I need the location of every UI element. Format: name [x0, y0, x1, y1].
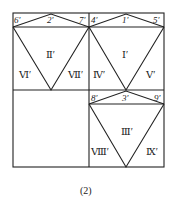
- point-label-3: 3′: [121, 93, 130, 103]
- region-label-9: Ⅸ′: [146, 146, 158, 157]
- point-label-6: 6′: [14, 15, 22, 25]
- diagram-canvas: 6′ 2′ 7′ 4′ 1′ 5′ 8′ 3′ 9′ Ⅱ′ Ⅵ′ Ⅶ′ Ⅰ′ Ⅳ…: [0, 0, 171, 205]
- point-label-1: 1′: [122, 15, 130, 25]
- region-label-6: Ⅵ′: [18, 69, 31, 80]
- point-label-8: 8′: [91, 93, 99, 103]
- point-label-2: 2′: [47, 15, 55, 25]
- region-label-3: Ⅲ′: [121, 126, 133, 137]
- region-label-7: Ⅶ′: [67, 69, 83, 80]
- region-label-5: Ⅴ′: [145, 69, 155, 80]
- point-label-4: 4′: [91, 15, 99, 25]
- region-label-2: Ⅱ′: [46, 49, 55, 60]
- point-label-5: 5′: [153, 15, 161, 25]
- region-label-4: Ⅳ′: [93, 69, 105, 80]
- region-label-8: Ⅷ′: [90, 146, 109, 157]
- point-label-9: 9′: [154, 93, 162, 103]
- point-label-7: 7′: [79, 15, 87, 25]
- region-label-1: Ⅰ′: [122, 49, 128, 60]
- figure-caption: (2): [80, 185, 92, 197]
